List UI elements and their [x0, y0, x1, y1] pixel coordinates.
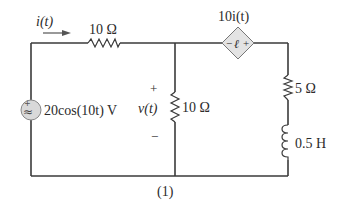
- svg-text:ℓ: ℓ: [234, 37, 239, 51]
- circuit-diagram: i(t) 10 Ω − ℓ + 10i(t) + ≈ 20cos(10t) V …: [0, 0, 343, 206]
- resistor-top-label: 10 Ω: [89, 22, 117, 37]
- voltage-label: v(t): [138, 101, 158, 117]
- svg-text:−: −: [226, 37, 232, 49]
- current-label: i(t): [36, 14, 53, 30]
- inductor-icon: [282, 125, 288, 160]
- voltage-plus: +: [150, 81, 157, 96]
- inductor-label: 0.5 H: [295, 136, 326, 151]
- resistor-top-icon: [88, 39, 120, 47]
- svg-text:+: +: [243, 37, 249, 49]
- voltage-source-label: 20cos(10t) V: [44, 103, 117, 119]
- dependent-source-icon: − ℓ +: [222, 27, 254, 59]
- voltage-source-icon: + ≈: [21, 99, 41, 120]
- svg-text:≈: ≈: [23, 105, 33, 119]
- resistor-right-icon: [284, 75, 292, 100]
- voltage-minus: −: [151, 129, 158, 144]
- resistor-right-label: 5 Ω: [295, 81, 316, 96]
- current-arrow: [43, 30, 71, 36]
- resistor-middle-icon: [171, 92, 179, 122]
- figure-caption: (1): [157, 184, 174, 200]
- dependent-source-label: 10i(t): [218, 9, 249, 25]
- resistor-middle-label: 10 Ω: [182, 100, 210, 115]
